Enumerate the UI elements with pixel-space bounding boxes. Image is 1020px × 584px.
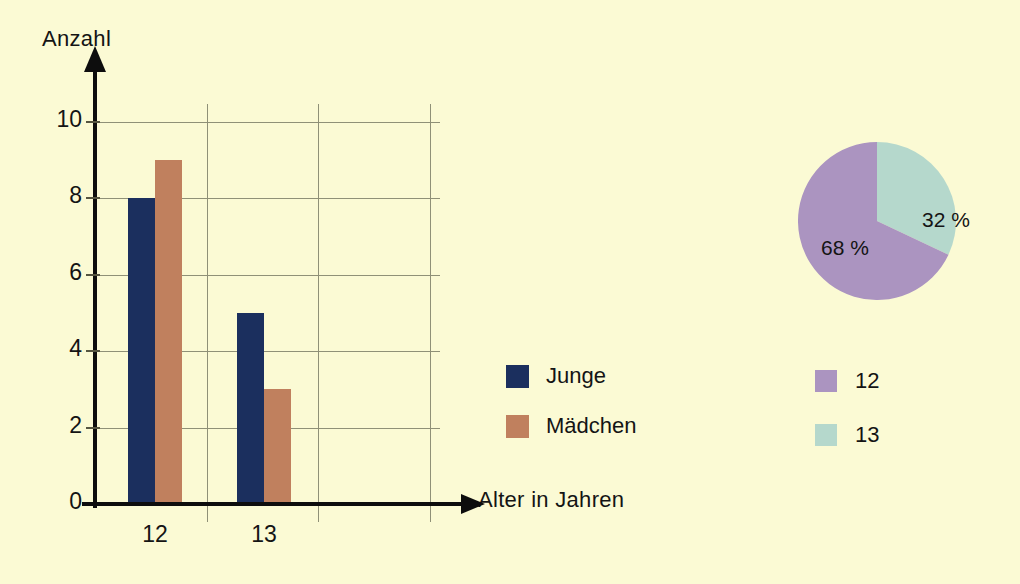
x-axis-tick-label: 13 (229, 521, 299, 548)
y-axis-tick-mark (86, 197, 100, 199)
x-axis-line (82, 502, 467, 506)
y-axis-tick-mark (86, 427, 100, 429)
legend-swatch-icon (506, 415, 529, 438)
bar-13-junge (237, 313, 264, 504)
y-axis-tick-mark (86, 274, 100, 276)
bar-12-mädchen (155, 160, 182, 504)
legend-label: Mädchen (546, 415, 637, 437)
x-axis-tick-label: 12 (120, 521, 190, 548)
bar-13-mädchen (264, 389, 291, 504)
bar-legend-item: Junge (506, 364, 637, 388)
bar-chart: Anzahl Alter in Jahren 1086420 1213 Jung… (0, 0, 720, 584)
legend-swatch-icon (815, 424, 837, 446)
legend-swatch-icon (506, 365, 529, 388)
legend-swatch-icon (815, 370, 837, 392)
y-axis-tick-label: 0 (34, 488, 82, 515)
y-axis-tick-label: 10 (34, 106, 82, 133)
bar-legend-item: Mädchen (506, 414, 637, 438)
plot-bars (0, 0, 720, 584)
bar-chart-legend: JungeMädchen (506, 364, 637, 464)
legend-label: 12 (855, 370, 879, 392)
legend-label: Junge (546, 365, 606, 387)
pie-slice-13-label: 32 % (922, 208, 970, 232)
legend-label: 13 (855, 424, 879, 446)
y-axis-tick-mark (86, 121, 100, 123)
bar-12-junge (128, 198, 155, 504)
y-axis-tick-mark (86, 350, 100, 352)
pie-chart-legend: 1213 (815, 369, 879, 477)
y-axis-arrow-icon (84, 46, 106, 72)
y-axis-tick-label: 4 (34, 335, 82, 362)
pie-legend-item: 12 (815, 369, 879, 393)
pie-slice-12-label: 68 % (821, 236, 869, 260)
y-axis-tick-label: 6 (34, 259, 82, 286)
figure-canvas: Anzahl Alter in Jahren 1086420 1213 Jung… (0, 0, 1020, 584)
y-axis-tick-label: 2 (34, 412, 82, 439)
x-axis-arrow-icon (461, 494, 485, 514)
y-axis-line (93, 62, 97, 508)
pie-legend-item: 13 (815, 423, 879, 447)
y-axis-tick-label: 8 (34, 182, 82, 209)
